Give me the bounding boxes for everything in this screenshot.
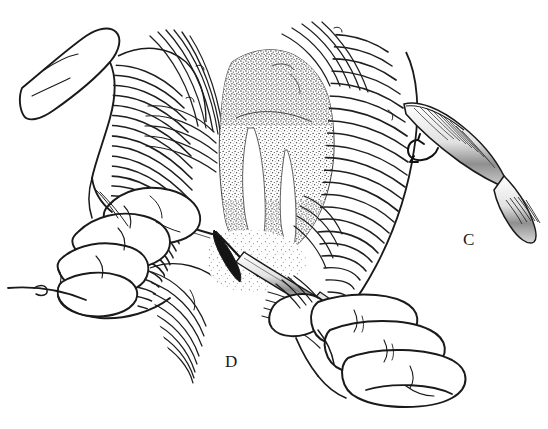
figure-label-c: C — [463, 231, 475, 248]
illustration-canvas — [0, 0, 548, 429]
figure-label-d: D — [225, 353, 238, 370]
surgical-illustration-figure: C D — [0, 0, 548, 429]
